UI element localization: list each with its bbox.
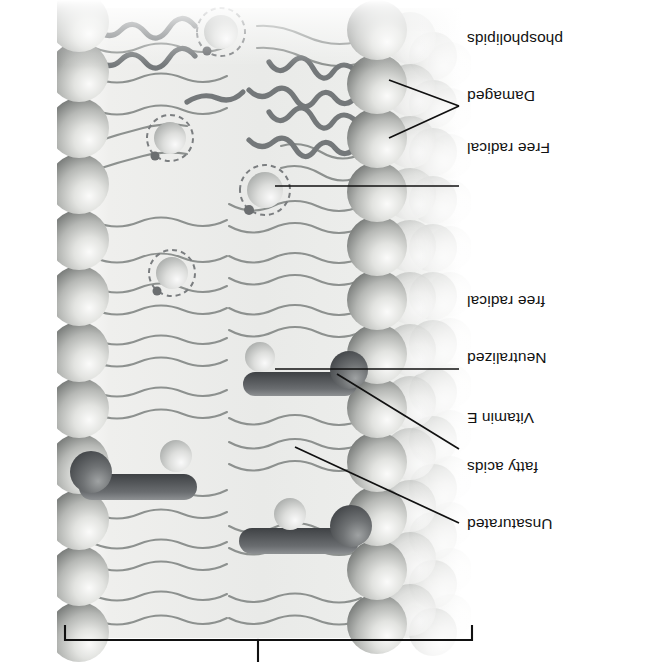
label-neutralized-free-radical-line2: free radical xyxy=(467,292,657,311)
label-neutralized-free-radical: Neutralized free radical xyxy=(467,254,657,406)
label-neutralized-free-radical-line1: Neutralized xyxy=(467,349,657,368)
rotated-figure-container: Unsaturated fatty acids Vitamin E Neutra… xyxy=(0,0,657,662)
label-vitamin-e-line1: Vitamin E xyxy=(467,409,657,428)
figure-canvas: Unsaturated fatty acids Vitamin E Neutra… xyxy=(0,0,657,662)
label-layer: Unsaturated fatty acids Vitamin E Neutra… xyxy=(0,0,657,662)
label-damaged-phospholipids-line1: Damaged xyxy=(467,87,657,106)
label-damaged-phospholipids-line2: phospholipids xyxy=(467,30,657,49)
label-damaged-phospholipids: Damaged phospholipids xyxy=(467,0,657,144)
label-unsaturated-fatty-acids-line1: Unsaturated xyxy=(467,515,657,534)
